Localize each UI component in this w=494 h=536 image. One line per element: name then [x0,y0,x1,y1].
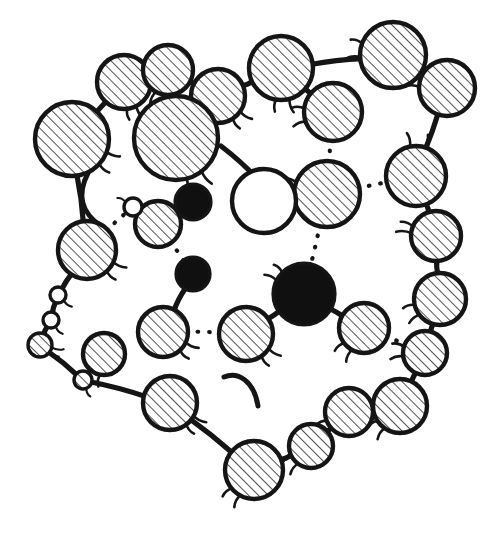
node-circle-hatched [225,441,283,499]
node-n01 [35,102,109,176]
node-circle-hatched [143,376,197,430]
node-n03 [143,45,193,95]
node-circle-hatched [360,22,426,88]
node-circle-open [124,198,142,216]
node-n27 [124,198,142,216]
node-circle-hatched [74,371,92,389]
node-n14 [325,388,373,436]
node-circle-solid [176,257,210,291]
node-n28 [134,96,218,180]
node-n09 [386,146,446,206]
node-circle-hatched [289,424,333,468]
node-n23 [83,333,125,375]
node-circle-hatched [403,331,447,375]
node-circle-hatched [373,379,427,433]
node-circle-hatched [339,303,389,353]
node-n29 [175,184,211,220]
node-circle-hatched [143,45,193,95]
node-circle-hatched [138,307,188,357]
node-n17 [143,376,197,430]
node-n11 [414,273,466,325]
node-circle-hatched [411,211,461,261]
node-circle-hatched [419,60,475,116]
node-n18 [74,371,92,389]
node-n08 [419,60,475,116]
node-n33 [294,161,360,227]
molecular-ring-diagram [0,0,494,536]
node-circle-hatched [386,146,446,206]
node-n24 [138,307,188,357]
node-circle-open [50,287,66,303]
node-circle-hatched [304,83,362,141]
node-n20 [43,312,59,328]
node-n32 [339,303,389,353]
node-n06 [304,83,362,141]
figure-root [0,0,494,536]
node-circle-hatched [83,333,125,375]
node-circle-hatched [134,96,218,180]
node-circle-solid [273,263,335,325]
node-n07 [360,22,426,88]
node-circle-hatched [28,333,52,357]
node-circle-hatched [219,307,273,361]
node-circle-solid [175,184,211,220]
node-circle-open [43,312,59,328]
node-n15 [289,424,333,468]
node-n30 [219,307,273,361]
node-circle-open [232,169,296,233]
node-circle-hatched [58,221,116,279]
node-n19 [28,333,52,357]
node-n34 [232,169,296,233]
node-n16 [225,441,283,499]
node-n10 [411,211,461,261]
node-n25 [176,257,210,291]
node-circle-hatched [414,273,466,325]
node-circle-hatched [35,102,109,176]
node-circle-hatched [294,161,360,227]
node-circle-hatched [325,388,373,436]
node-n13 [373,379,427,433]
node-n22 [58,221,116,279]
node-n21 [50,287,66,303]
node-circle-hatched [249,36,313,100]
node-n31 [273,263,335,325]
node-n05 [249,36,313,100]
node-n12 [403,331,447,375]
